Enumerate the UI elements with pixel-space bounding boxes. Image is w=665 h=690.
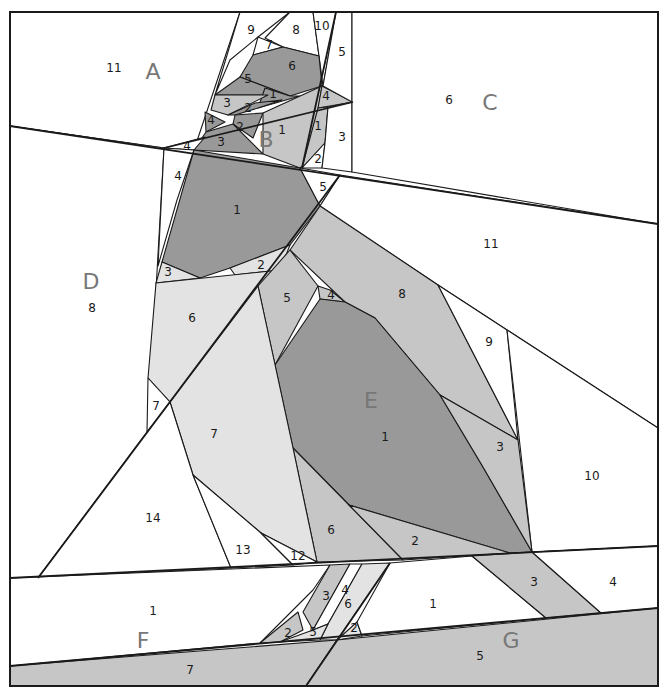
piece-number-label: 11 bbox=[483, 237, 498, 251]
pieces-layer bbox=[10, 12, 658, 686]
piece-number-label: 3 bbox=[338, 130, 346, 144]
piece-number-label: 2 bbox=[257, 258, 265, 272]
pattern-diagram: 1198710651324234141235684153267118910541… bbox=[0, 0, 665, 690]
piece-number-label: 1 bbox=[381, 430, 389, 444]
piece-number-label: 11 bbox=[106, 61, 121, 75]
piece-number-label: 14 bbox=[145, 511, 160, 525]
piece-number-label: 2 bbox=[284, 626, 292, 640]
piece-number-label: 10 bbox=[314, 19, 329, 33]
piece-number-label: 3 bbox=[217, 135, 225, 149]
piece-number-label: 8 bbox=[88, 301, 96, 315]
piece-number-label: 6 bbox=[327, 523, 335, 537]
piece-number-label: 5 bbox=[244, 72, 252, 86]
piece-number-label: 5 bbox=[309, 625, 317, 639]
section-label-e: E bbox=[364, 388, 378, 413]
piece-number-label: 5 bbox=[319, 180, 327, 194]
piece-number-label: 8 bbox=[398, 287, 406, 301]
piece-number-label: 9 bbox=[485, 335, 493, 349]
piece-number-label: 3 bbox=[164, 265, 172, 279]
section-label-d: D bbox=[83, 269, 100, 294]
piece-number-label: 3 bbox=[530, 575, 538, 589]
piece-number-label: 4 bbox=[322, 89, 330, 103]
piece-number-label: 4 bbox=[183, 139, 191, 153]
piece-number-label: 2 bbox=[314, 152, 322, 166]
piece-number-label: 5 bbox=[283, 291, 291, 305]
piece-number-label: 1 bbox=[429, 597, 437, 611]
piece-number-label: 2 bbox=[236, 120, 244, 134]
bird-pattern-svg: 1198710651324234141235684153267118910541… bbox=[0, 0, 665, 690]
piece-number-label: 10 bbox=[584, 469, 599, 483]
piece-number-label: 1 bbox=[278, 123, 286, 137]
piece-number-label: 1 bbox=[233, 203, 241, 217]
piece-number-label: 4 bbox=[609, 575, 617, 589]
piece-number-label: 7 bbox=[186, 663, 194, 677]
piece-number-label: 4 bbox=[341, 583, 349, 597]
section-label-g: G bbox=[502, 628, 519, 653]
section-label-c: C bbox=[482, 90, 497, 115]
piece-number-label: 9 bbox=[247, 23, 255, 37]
piece-number-label: 4 bbox=[327, 288, 335, 302]
piece-number-label: 3 bbox=[322, 589, 330, 603]
piece-number-label: 7 bbox=[152, 399, 160, 413]
piece-number-label: 1 bbox=[314, 119, 322, 133]
piece-number-label: 5 bbox=[338, 45, 346, 59]
section-label-f: F bbox=[137, 628, 150, 653]
piece-number-label: 2 bbox=[411, 534, 419, 548]
section-label-a: A bbox=[145, 59, 160, 84]
piece-number-label: 3 bbox=[496, 440, 504, 454]
piece-number-label: 13 bbox=[235, 543, 250, 557]
piece-number-label: 3 bbox=[223, 96, 231, 110]
piece-number-label: 6 bbox=[188, 311, 196, 325]
piece-number-label: 4 bbox=[207, 113, 215, 127]
section-label-b: B bbox=[258, 127, 273, 152]
piece-number-label: 7 bbox=[265, 38, 273, 52]
piece-number-label: 6 bbox=[445, 93, 453, 107]
piece-number-label: 8 bbox=[292, 23, 300, 37]
piece-number-label: 4 bbox=[174, 169, 182, 183]
piece-number-label: 2 bbox=[244, 101, 252, 115]
piece-number-label: 1 bbox=[149, 604, 157, 618]
piece-number-label: 6 bbox=[288, 59, 296, 73]
piece-number-label: 6 bbox=[344, 597, 352, 611]
piece-number-label: 1 bbox=[269, 87, 277, 101]
piece-number-label: 7 bbox=[210, 427, 218, 441]
piece-number-label: 2 bbox=[350, 621, 358, 635]
piece-number-label: 5 bbox=[476, 649, 484, 663]
piece-number-label: 12 bbox=[290, 549, 305, 563]
